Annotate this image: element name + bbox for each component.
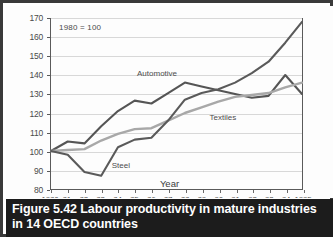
x-tick-label: 83 bbox=[96, 195, 105, 198]
x-tick-mark bbox=[203, 190, 204, 193]
x-tick-label: 87 bbox=[164, 195, 173, 198]
x-tick-mark bbox=[135, 190, 136, 193]
y-tick-label: 100 bbox=[6, 147, 43, 157]
x-tick-label: 90 bbox=[214, 195, 223, 198]
x-tick-mark bbox=[169, 190, 170, 193]
x-tick-label: 1995 bbox=[295, 195, 312, 198]
x-tick-label: 88 bbox=[181, 195, 190, 198]
y-tick-label: 170 bbox=[6, 13, 43, 23]
chart-panel: 8090100110120130140150160170 1980 = 100 … bbox=[6, 6, 333, 198]
x-tick-label: 89 bbox=[198, 195, 207, 198]
x-tick-label: 92 bbox=[248, 195, 257, 198]
figure-frame: 8090100110120130140150160170 1980 = 100 … bbox=[0, 0, 333, 237]
x-tick-mark bbox=[220, 190, 221, 193]
x-axis-title: Year bbox=[6, 178, 333, 189]
series-label-steel: Steel bbox=[112, 161, 130, 170]
screenshot-root: 8090100110120130140150160170 1980 = 100 … bbox=[0, 0, 333, 237]
x-tick-mark bbox=[253, 190, 254, 193]
y-tick-label: 140 bbox=[6, 70, 43, 80]
x-tick-label: 82 bbox=[79, 195, 88, 198]
x-tick-mark bbox=[304, 190, 305, 193]
x-tick-mark bbox=[237, 190, 238, 193]
x-tick-mark bbox=[118, 190, 119, 193]
series-label-textiles: Textiles bbox=[210, 113, 237, 122]
x-tick-label: 86 bbox=[147, 195, 156, 198]
y-tick-label: 160 bbox=[6, 32, 43, 42]
plot-area: 1980 = 100 AutomotiveTextilesSteel bbox=[50, 18, 303, 190]
x-tick-label: 85 bbox=[130, 195, 139, 198]
y-tick-mark bbox=[47, 190, 50, 191]
line-textiles bbox=[51, 83, 302, 151]
y-tick-label: 90 bbox=[6, 166, 43, 176]
caption-line: Figure 5.42 Labour productivity in matur… bbox=[12, 202, 327, 232]
x-tick-mark bbox=[186, 190, 187, 193]
x-tick-mark bbox=[152, 190, 153, 193]
x-tick-mark bbox=[68, 190, 69, 193]
x-tick-mark bbox=[270, 190, 271, 193]
x-tick-label: 93 bbox=[265, 195, 274, 198]
figure-caption: Figure 5.42 Labour productivity in matur… bbox=[6, 199, 333, 237]
x-tick-label: 81 bbox=[63, 195, 72, 198]
caption-figure-number: Figure 5.42 bbox=[12, 202, 77, 216]
line-automotive bbox=[51, 75, 302, 151]
x-tick-mark bbox=[85, 190, 86, 193]
y-tick-label: 130 bbox=[6, 89, 43, 99]
y-tick-label: 110 bbox=[6, 128, 43, 138]
x-tick-mark bbox=[102, 190, 103, 193]
base-year-annotation: 1980 = 100 bbox=[59, 23, 101, 32]
x-tick-label: 84 bbox=[113, 195, 122, 198]
y-tick-label: 120 bbox=[6, 109, 43, 119]
x-tick-mark bbox=[287, 190, 288, 193]
series-lines bbox=[51, 18, 302, 189]
x-tick-label: 94 bbox=[282, 195, 291, 198]
y-tick-label: 150 bbox=[6, 51, 43, 61]
series-label-automotive: Automotive bbox=[137, 69, 177, 78]
x-tick-label: 91 bbox=[231, 195, 240, 198]
x-tick-label: 1980 bbox=[42, 195, 59, 198]
line-steel bbox=[51, 22, 302, 176]
x-tick-mark bbox=[51, 190, 52, 193]
